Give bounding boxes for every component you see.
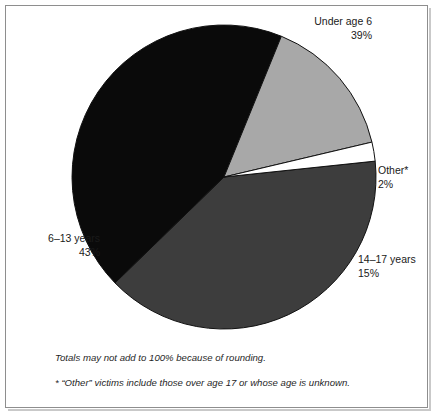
pie-slice-group: [72, 25, 376, 329]
slice-label-text: 14–17 years: [358, 253, 416, 265]
slice-label-other: Other* 2%: [378, 163, 408, 191]
pie-chart-figure: Under age 6 39% Other* 2% 14–17 years 15…: [0, 0, 442, 418]
slice-label-under-age-6: Under age 6 39%: [314, 14, 372, 42]
footnote-rounding: Totals may not add to 100% because of ro…: [55, 352, 266, 363]
slice-percent-text: 39%: [314, 28, 372, 42]
slice-percent-text: 43%: [18, 245, 100, 259]
footnote-other-definition: * “Other” victims include those over age…: [55, 377, 350, 388]
slice-percent-text: 2%: [378, 177, 408, 191]
slice-percent-text: 15%: [358, 266, 416, 280]
slice-label-6-13-years: 6–13 years 43%: [18, 231, 100, 259]
slice-label-text: Other*: [378, 164, 408, 176]
slice-label-14-17-years: 14–17 years 15%: [358, 252, 416, 280]
slice-label-text: Under age 6: [314, 15, 372, 27]
slice-label-text: 6–13 years: [48, 232, 100, 244]
